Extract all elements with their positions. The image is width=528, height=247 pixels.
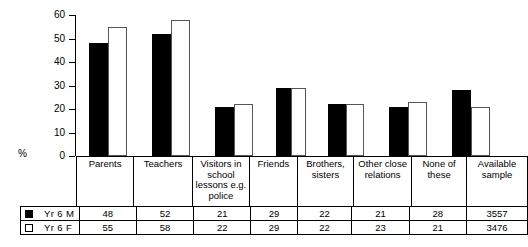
bar-female (471, 107, 490, 156)
bar-group (139, 15, 202, 156)
legend-label: Yr 6 M (44, 208, 74, 219)
bar-group (376, 15, 439, 156)
y-axis-tick (69, 39, 75, 40)
category-header-row: ParentsTeachersVisitors inschoollessons … (77, 157, 528, 208)
y-axis-tick-label: 30 (43, 81, 65, 91)
data-cell: 29 (251, 221, 297, 235)
data-cell: 28 (409, 207, 466, 221)
bar-male (276, 88, 291, 156)
data-cell: 22 (194, 221, 251, 235)
category-header-line: None of these (413, 159, 465, 180)
available-sample-cell: 3557 (466, 207, 527, 221)
category-header-cell: None of these (412, 157, 467, 208)
category-header-cell: Brothers,sisters (297, 157, 353, 208)
bar-female (234, 104, 253, 156)
data-cell: 21 (409, 221, 466, 235)
bar-group (439, 15, 502, 156)
legend-cell: Yr 6 F (21, 221, 80, 235)
bar-male (89, 43, 108, 156)
data-cell: 21 (352, 207, 409, 221)
category-header-cell: Visitors inschoollessons e.g.police (192, 157, 249, 208)
bar-male (215, 107, 234, 156)
available-sample-header-cell: Availablesample (467, 157, 528, 208)
data-table: Yr 6 M485221292221283557 Yr 6 F555822292… (20, 206, 528, 235)
category-header-line: Brothers, (299, 159, 352, 170)
category-header-line: Teachers (135, 159, 191, 170)
bar-female (346, 104, 364, 156)
legend-swatch-male-icon (25, 210, 33, 218)
category-header-line: lessons e.g. (194, 180, 248, 191)
data-cell: 23 (352, 221, 409, 235)
y-axis-tick (69, 15, 75, 16)
category-header-line: relations (355, 170, 410, 181)
category-header-cell: Parents (77, 157, 134, 208)
category-header-line: sisters (299, 170, 352, 181)
table-row: Yr 6 M485221292221283557 (21, 207, 528, 221)
available-sample-header-line: sample (468, 170, 526, 181)
y-axis-tick (69, 156, 75, 157)
bar-male (152, 34, 171, 156)
bar-male (452, 90, 471, 156)
y-axis-tick-label: 10 (43, 128, 65, 138)
legend-swatch-female-icon (25, 224, 33, 232)
y-axis-tick-label: 0 (43, 151, 65, 161)
data-cell: 29 (251, 207, 297, 221)
table-row: Yr 6 F555822292223213476 (21, 221, 528, 235)
available-sample-header-line: Available (468, 159, 526, 170)
bar-chart-figure: % 0102030405060 ParentsTeachersVisitors … (0, 0, 528, 247)
y-axis-tick (69, 86, 75, 87)
bar-female (291, 88, 306, 156)
y-axis-unit-label: % (18, 148, 27, 159)
legend-cell: Yr 6 M (21, 207, 80, 221)
category-header-line: Visitors in (194, 159, 248, 170)
category-header-cell: Other closerelations (354, 157, 412, 208)
bar-female (108, 27, 127, 156)
plot-area (76, 15, 452, 156)
category-header-table: ParentsTeachersVisitors inschoollessons … (76, 156, 528, 208)
category-header-line: Parents (78, 159, 132, 170)
data-cell: 58 (136, 221, 193, 235)
category-header-line: police (194, 191, 248, 202)
category-header-line: Friends (251, 159, 296, 170)
bar-female (408, 102, 427, 156)
bar-male (389, 107, 408, 156)
y-axis-tick-label: 50 (43, 34, 65, 44)
bar-male (328, 104, 346, 156)
y-axis-tick-label: 20 (43, 104, 65, 114)
data-cell: 55 (79, 221, 136, 235)
y-axis-tick (69, 133, 75, 134)
data-cell: 22 (297, 207, 352, 221)
y-axis-tick (69, 62, 75, 63)
available-sample-cell: 3476 (466, 221, 527, 235)
bar-group (202, 15, 265, 156)
data-cell: 52 (136, 207, 193, 221)
data-cell: 48 (79, 207, 136, 221)
y-axis-tick-label: 60 (43, 10, 65, 20)
category-header-cell: Friends (249, 157, 297, 208)
bar-female (171, 20, 190, 156)
data-cell: 21 (194, 207, 251, 221)
y-axis-tick (69, 109, 75, 110)
data-cell: 22 (297, 221, 352, 235)
category-header-line: Other close (355, 159, 410, 170)
bar-group (76, 15, 139, 156)
legend-label: Yr 6 F (44, 222, 72, 233)
y-axis-tick-label: 40 (43, 57, 65, 67)
bar-group (265, 15, 316, 156)
category-header-cell: Teachers (134, 157, 193, 208)
bar-group (316, 15, 376, 156)
